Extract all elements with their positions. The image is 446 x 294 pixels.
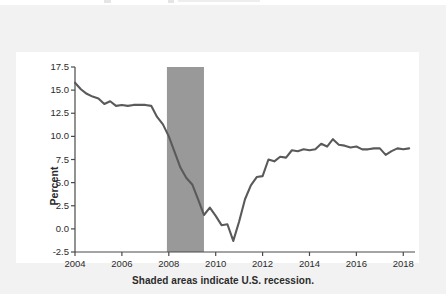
y-axis-tick-label: 10.0: [19, 130, 69, 141]
x-axis-tick-label: 2018: [378, 258, 428, 269]
y-axis-tick-label: 0.0: [19, 223, 69, 234]
cropped-text-smudge: [104, 0, 111, 3]
x-axis-tick-label: 2008: [144, 258, 194, 269]
y-axis-tick-label: 17.5: [19, 61, 69, 72]
x-axis-tick-label: 2014: [284, 258, 334, 269]
chart-canvas: Percent -2.50.02.55.07.510.012.515.017.5…: [16, 52, 419, 263]
y-axis-tick-label: 15.0: [19, 84, 69, 95]
chart-footnote-caption: Shaded areas indicate U.S. recession.: [0, 275, 446, 286]
recession-shaded-band: [167, 67, 204, 252]
x-axis-tick-label: 2004: [50, 258, 100, 269]
y-axis-tick-label: -2.5: [19, 246, 69, 257]
scan-paper-background: Percent -2.50.02.55.07.510.012.515.017.5…: [0, 5, 446, 294]
cropped-text-smudge: [168, 0, 174, 3]
x-axis-tick-label: 2016: [331, 258, 381, 269]
x-axis-tick-label: 2006: [97, 258, 147, 269]
chart-screenshot: Percent -2.50.02.55.07.510.012.515.017.5…: [0, 0, 446, 294]
cropped-text-smudge: [178, 0, 260, 2]
data-series-line: [75, 83, 409, 241]
y-axis-tick-label: 5.0: [19, 177, 69, 188]
x-axis-tick-label: 2010: [191, 258, 241, 269]
y-axis-tick-label: 2.5: [19, 200, 69, 211]
line-chart-plot: [16, 52, 419, 263]
y-axis-tick-label: 7.5: [19, 154, 69, 165]
x-axis-tick-label: 2012: [238, 258, 288, 269]
y-axis-tick-label: 12.5: [19, 107, 69, 118]
